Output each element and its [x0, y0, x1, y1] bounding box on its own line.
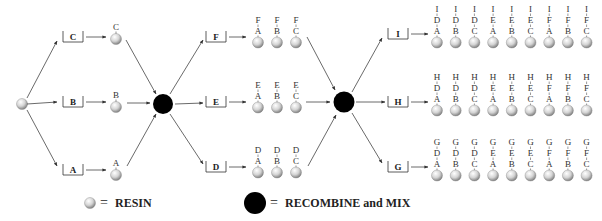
residue-label: E: [490, 148, 496, 158]
residue-label: D: [434, 83, 441, 93]
residue-label: D: [434, 148, 441, 158]
resin-bead: [469, 37, 480, 48]
residue-label: F: [547, 15, 552, 25]
residue-label: C: [584, 26, 590, 36]
residue-label: B: [509, 159, 515, 169]
resin-bead: [469, 105, 480, 116]
product-G-E-B: GEB: [506, 137, 517, 181]
residue-label: G: [546, 137, 553, 147]
residue-label: A: [255, 91, 262, 101]
reagent-label: G: [394, 162, 401, 172]
residue-label: C: [584, 94, 590, 104]
residue-label: H: [565, 72, 572, 82]
resin-bead: [450, 37, 461, 48]
resin-bead: [562, 170, 573, 181]
product-I-E-B: IEB: [506, 4, 517, 48]
resin-bead: [111, 170, 122, 181]
reagent-box-G: G: [388, 161, 408, 172]
residue-label: G: [471, 137, 478, 147]
product-D-A: DA: [253, 145, 264, 178]
resin-bead: [562, 105, 573, 116]
residue-label: I: [436, 4, 439, 14]
resin-bead: [253, 167, 264, 178]
resin-bead: [432, 105, 443, 116]
residue-label: H: [583, 72, 590, 82]
reagent-box-E: E: [206, 96, 226, 107]
residue-label: D: [255, 145, 262, 155]
mix-arrow: [307, 37, 335, 90]
reagent-label: A: [70, 165, 77, 175]
product-I-D-A: IDA: [432, 4, 443, 48]
residue-label: C: [527, 159, 533, 169]
residue-label: F: [584, 15, 589, 25]
equals-sign: =: [100, 195, 108, 210]
residue-label: C: [471, 26, 477, 36]
resin-bead: [450, 170, 461, 181]
residue-label: G: [490, 137, 497, 147]
product-I-E-A: IEA: [488, 4, 499, 48]
residue-label: A: [434, 159, 441, 169]
product-F-A: FA: [253, 15, 264, 48]
residue-label: G: [583, 137, 590, 147]
residue-label: B: [509, 26, 515, 36]
resin-bead: [432, 170, 443, 181]
product-B: B: [111, 90, 122, 113]
residue-label: I: [492, 4, 495, 14]
split-arrow: [27, 102, 57, 104]
residue-label: F: [565, 148, 570, 158]
residue-label: A: [434, 26, 441, 36]
product-C: C: [111, 22, 122, 45]
reagent-box-D: D: [206, 161, 226, 172]
product-I-D-B: IDB: [450, 4, 461, 48]
residue-label: F: [584, 83, 589, 93]
residue-label: G: [452, 137, 459, 147]
residue-label: B: [453, 159, 459, 169]
resin-bead: [544, 170, 555, 181]
resin-bead: [506, 105, 517, 116]
residue-label: A: [546, 26, 553, 36]
product-H-E-A: HEA: [488, 72, 499, 116]
residue-label: E: [274, 80, 280, 90]
residue-label: E: [528, 148, 534, 158]
residue-label: C: [527, 94, 533, 104]
resin-legend-icon: [85, 198, 96, 209]
residue-label: C: [293, 91, 299, 101]
reagent-box-A: A: [63, 164, 83, 175]
resin-bead: [111, 102, 122, 113]
residue-label: C: [293, 26, 299, 36]
reagent-box-B: B: [63, 96, 83, 107]
product-F-C: FC: [291, 15, 302, 48]
residue-label: B: [565, 159, 571, 169]
residue-label: H: [434, 72, 441, 82]
starting-resin: [17, 99, 28, 110]
residue-label: D: [471, 15, 478, 25]
residue-label: C: [527, 26, 533, 36]
residue-label: A: [546, 94, 553, 104]
equals-sign: =: [270, 195, 278, 210]
mix-arrow: [308, 115, 336, 166]
residue-label: A: [490, 94, 497, 104]
residue-label: D: [274, 145, 281, 155]
resin-bead: [544, 105, 555, 116]
residue-label: G: [527, 137, 534, 147]
product-H-F-A: HFA: [544, 72, 555, 116]
residue-label: G: [565, 137, 572, 147]
recombine-legend-label: RECOMBINE and MIX: [285, 196, 411, 210]
residue-label: E: [255, 80, 261, 90]
product-H-D-B: HDB: [450, 72, 461, 116]
residue-label: D: [293, 145, 300, 155]
residue-label: H: [546, 72, 553, 82]
residue-label: A: [490, 159, 497, 169]
reagent-label: H: [394, 97, 401, 107]
product-D-C: DC: [291, 145, 302, 178]
residue-label: F: [584, 148, 589, 158]
residue-label: I: [454, 4, 457, 14]
residue-label: I: [585, 4, 588, 14]
residue-label: A: [113, 158, 120, 168]
residue-label: D: [434, 15, 441, 25]
residue-label: A: [255, 26, 262, 36]
resin-bead: [488, 170, 499, 181]
product-I-D-C: IDC: [469, 4, 480, 48]
residue-label: E: [509, 148, 515, 158]
product-G-F-B: GFB: [562, 137, 573, 181]
